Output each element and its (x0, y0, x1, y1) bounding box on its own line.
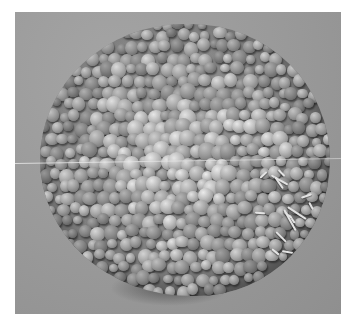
cell (253, 40, 263, 50)
cell (204, 62, 216, 73)
cell (68, 229, 77, 239)
cell (163, 215, 177, 230)
cell (319, 193, 329, 203)
cell (255, 118, 270, 133)
cell (148, 273, 159, 283)
cell (56, 134, 68, 144)
cell (98, 168, 109, 178)
cell (65, 148, 75, 158)
cell (317, 169, 328, 181)
cell (136, 87, 146, 98)
cell (81, 142, 96, 157)
cell (62, 215, 72, 225)
cell (96, 261, 108, 274)
cell (97, 213, 110, 224)
cell (305, 218, 316, 228)
cell (153, 287, 164, 296)
cell (146, 62, 159, 75)
cell (174, 260, 189, 274)
cell (293, 74, 305, 87)
cell (153, 24, 162, 30)
cell (67, 87, 78, 98)
cell (320, 182, 330, 192)
cell (187, 283, 198, 295)
cell (295, 218, 304, 227)
cell (245, 190, 257, 202)
cell (282, 194, 294, 204)
cell (108, 75, 120, 86)
cell (291, 145, 304, 157)
cell (141, 30, 153, 40)
cell (137, 42, 147, 52)
cell (323, 134, 330, 145)
cell (228, 226, 241, 238)
cell (263, 87, 274, 98)
cell (101, 40, 114, 55)
cell (253, 271, 264, 283)
cell (157, 52, 168, 63)
cell (63, 121, 73, 130)
cell (42, 191, 53, 202)
cell (52, 98, 61, 106)
cell (310, 112, 321, 124)
cell (171, 201, 185, 214)
cell (235, 27, 247, 40)
cell (201, 260, 211, 270)
cell (227, 39, 240, 50)
cell (223, 262, 234, 273)
cell (109, 264, 118, 272)
cell (197, 38, 210, 51)
cell (171, 39, 184, 51)
cell (146, 226, 161, 239)
cell (315, 123, 328, 135)
cell (273, 109, 287, 121)
cell (216, 39, 228, 52)
cell (276, 64, 286, 75)
cell (190, 262, 202, 272)
cell (46, 156, 56, 166)
cell (220, 64, 230, 72)
cell (279, 252, 288, 261)
cell (237, 201, 252, 215)
cell (86, 52, 99, 66)
cell (40, 122, 49, 133)
cell (98, 76, 109, 87)
cell (94, 249, 105, 259)
cell (146, 239, 156, 249)
cell (52, 122, 63, 133)
cell (73, 216, 83, 225)
cell (126, 64, 136, 73)
cell (297, 89, 308, 99)
cell (257, 261, 268, 271)
cell (67, 135, 77, 143)
cell (292, 121, 305, 134)
cell (268, 191, 281, 203)
cell (109, 192, 120, 204)
cell (90, 227, 105, 241)
cell (158, 40, 170, 51)
cell (50, 214, 63, 226)
cell (258, 75, 270, 88)
cell (74, 76, 83, 85)
cell (79, 205, 90, 217)
cell (47, 206, 55, 214)
cell (269, 97, 280, 108)
cell (223, 54, 232, 64)
cell (244, 273, 253, 282)
cell (151, 258, 166, 271)
cell (163, 275, 173, 283)
cell (125, 224, 139, 236)
cell (107, 239, 118, 249)
cell (187, 238, 199, 250)
micrograph-frame (15, 12, 341, 314)
cell (300, 230, 309, 238)
cell (284, 87, 298, 100)
cell (303, 98, 314, 108)
cell (229, 275, 239, 285)
cell (198, 74, 211, 86)
cell (166, 28, 176, 37)
cell (288, 181, 299, 192)
cell (256, 236, 270, 248)
cell (166, 76, 177, 86)
cell (130, 236, 141, 248)
